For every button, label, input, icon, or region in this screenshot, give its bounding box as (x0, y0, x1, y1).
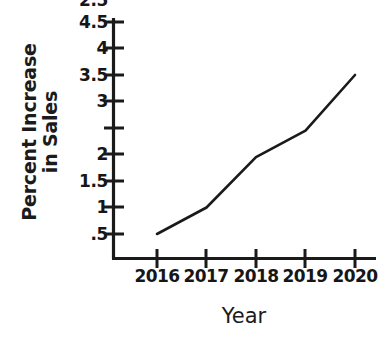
data-line-series-1 (157, 75, 355, 234)
chart-screenshot: Percent Increase in Sales 4.5 4 3.5 3 2.… (0, 0, 388, 354)
x-axis-tick-labels: 2016 2017 2018 2019 2020 (0, 268, 388, 292)
x-axis-title: Year (113, 306, 375, 327)
x-tick-label: 2020 (325, 268, 385, 285)
plot-area (0, 0, 388, 354)
